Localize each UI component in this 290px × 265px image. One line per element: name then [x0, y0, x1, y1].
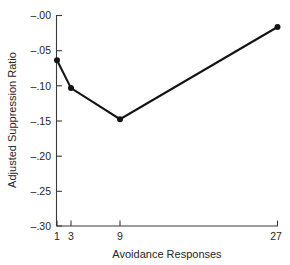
y-tick-label: –.15 — [31, 115, 52, 127]
y-tick-label: –.30 — [31, 220, 52, 232]
x-tick-label: 9 — [117, 230, 123, 242]
line-chart-plot: –.00 –.05 –.10 –.15 –.20 –.25 –.30 1 3 9… — [0, 0, 290, 265]
data-series-line — [57, 27, 278, 119]
x-tick-label: 27 — [270, 230, 282, 242]
x-tick-label: 1 — [54, 230, 60, 242]
data-point-marker — [68, 85, 74, 91]
y-tick-label: –.20 — [31, 150, 52, 162]
y-tick-label: –.00 — [31, 9, 52, 21]
y-axis-ticks — [57, 16, 63, 227]
data-point-marker — [275, 24, 281, 30]
x-axis-title: Avoidance Responses — [112, 248, 222, 260]
chart-figure: –.00 –.05 –.10 –.15 –.20 –.25 –.30 1 3 9… — [0, 0, 290, 265]
y-tick-label: –.25 — [31, 185, 52, 197]
x-axis-ticks — [57, 221, 278, 227]
data-point-marker — [117, 116, 123, 122]
data-markers — [54, 24, 281, 122]
data-point-marker — [54, 57, 60, 63]
y-axis-tick-labels: –.00 –.05 –.10 –.15 –.20 –.25 –.30 — [31, 9, 52, 232]
y-tick-label: –.10 — [31, 80, 52, 92]
x-tick-label: 3 — [68, 230, 74, 242]
y-axis-title: Adjusted Suppression Ratio — [6, 52, 18, 188]
x-axis-tick-labels: 1 3 9 27 — [54, 230, 282, 242]
y-tick-label: –.05 — [31, 44, 52, 56]
